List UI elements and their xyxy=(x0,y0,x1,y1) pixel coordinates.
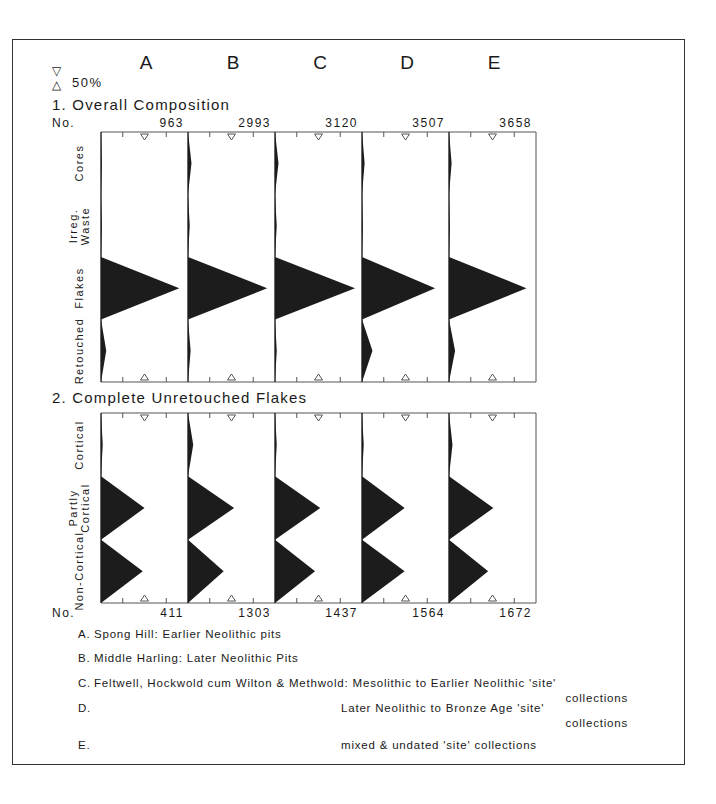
legend-key-d: D. xyxy=(78,702,91,714)
series-polygon-c xyxy=(275,132,355,382)
legend-text-a: Spong Hill: Earlier Neolithic pits xyxy=(94,628,282,640)
legend-key-b: B. xyxy=(78,652,90,664)
series-polygon-c xyxy=(275,413,320,603)
legend-key-a: A. xyxy=(78,628,90,640)
series-polygon-b xyxy=(188,413,234,603)
legend-key-c: C. xyxy=(78,677,91,689)
series-polygon-d xyxy=(362,132,435,382)
legend-key-e: E. xyxy=(78,739,90,751)
series-polygon-d xyxy=(362,413,405,603)
legend-text-c: Feltwell, Hockwold cum Wilton & Methwold… xyxy=(94,677,556,689)
series-polygon-a xyxy=(101,132,179,382)
legend-text-b: Middle Harling: Later Neolithic Pits xyxy=(94,652,299,664)
legend-text-e: mixed & undated 'site' collections xyxy=(341,739,537,751)
series-polygon-e xyxy=(449,132,526,382)
series-polygon-e xyxy=(449,413,493,603)
legend-continuation: collections xyxy=(500,717,628,729)
legend-text-d: Later Neolithic to Bronze Age 'site' xyxy=(341,702,544,714)
series-polygon-a xyxy=(101,413,145,603)
series-polygon-b xyxy=(188,132,267,382)
